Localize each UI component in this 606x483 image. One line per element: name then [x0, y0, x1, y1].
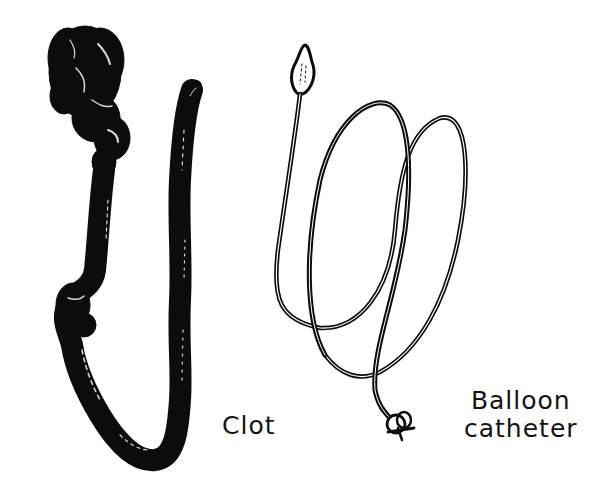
figure: Clot Balloon catheter — [0, 0, 606, 483]
balloon-catheter-label-line2: catheter — [464, 415, 578, 443]
catheter-shaft-thin — [276, 94, 465, 377]
balloon-catheter-label-line1: Balloon — [464, 387, 578, 415]
clot-illustration — [48, 26, 196, 460]
catheter-hub — [387, 412, 414, 440]
balloon-tip — [292, 45, 315, 94]
catheter-shaft-thick — [309, 103, 408, 420]
balloon-catheter-label: Balloon catheter — [464, 387, 578, 443]
catheter-illustration — [276, 45, 465, 440]
clot-label: Clot — [222, 412, 276, 440]
